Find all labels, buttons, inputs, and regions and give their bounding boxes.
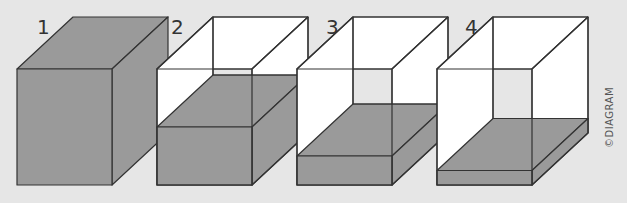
cube-4-water-front (437, 171, 532, 186)
cube-label-3: 3 (326, 17, 339, 37)
cube-2-water-front (157, 127, 252, 185)
cube-1-front-face (17, 69, 112, 185)
cube-label-2: 2 (171, 17, 184, 37)
cube-fill-diagram (0, 0, 627, 203)
cube-3-water-front (297, 156, 392, 185)
cube-label-1: 1 (37, 17, 50, 37)
copyright-notice: ©DIAGRAM (604, 87, 615, 148)
cube-label-4: 4 (465, 17, 478, 37)
